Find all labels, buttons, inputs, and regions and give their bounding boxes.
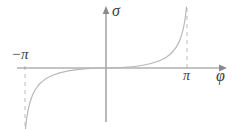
x-tick-label-pi: π [183,69,190,83]
chart-figure: σ φ −π π [0,0,244,129]
y-axis-label-sigma: σ [112,3,120,19]
plot-canvas [0,0,244,129]
y-axis-arrowhead-icon [103,6,110,14]
x-tick-label-negative-pi: −π [11,47,29,62]
x-axis-label-phi: φ [216,68,225,84]
